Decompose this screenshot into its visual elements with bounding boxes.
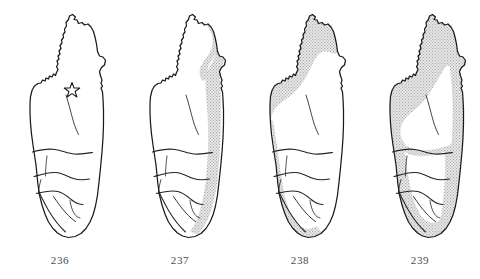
map-caption-239: 239 [411,254,429,266]
figure-plate: 236 237 238 239 [0,0,480,279]
map-caption-238: 238 [291,254,309,266]
map-caption-237: 237 [171,254,189,266]
map-caption-236: 236 [51,254,69,266]
